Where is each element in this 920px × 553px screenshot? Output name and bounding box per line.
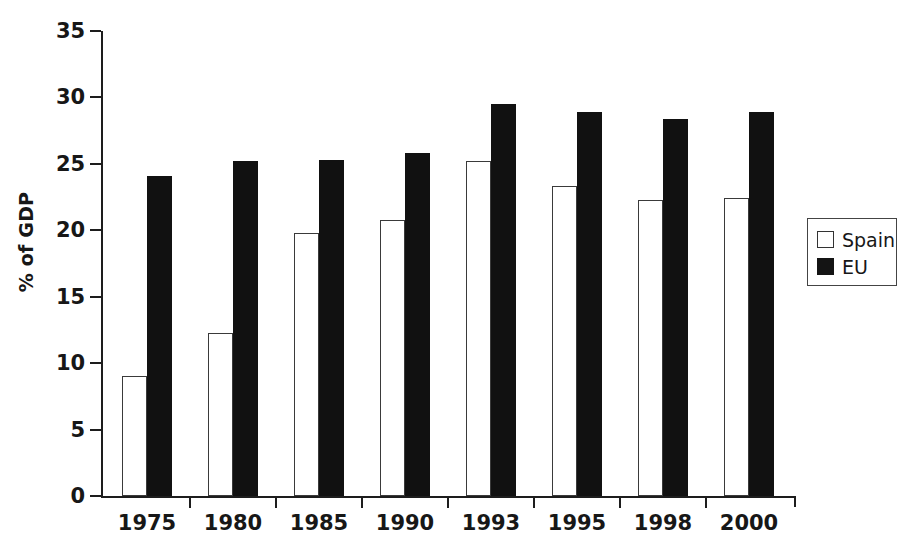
y-axis-tick <box>90 296 101 298</box>
legend-item-eu: EU <box>817 253 896 280</box>
x-axis-tick-label: 1998 <box>634 511 692 535</box>
bar-spain-1975 <box>122 376 147 496</box>
x-axis-tick-label: 1990 <box>376 511 434 535</box>
y-axis-tick-label: 0 <box>71 484 88 508</box>
y-axis-title: % of GDP <box>15 172 37 312</box>
y-axis-tick-label: 30 <box>56 85 87 109</box>
legend-label-spain: Spain <box>842 229 895 251</box>
bar-chart: % of GDP 05101520253035 1975198019851990… <box>0 0 920 553</box>
bar-spain-1985 <box>294 233 319 496</box>
x-axis-tick-label: 1995 <box>548 511 606 535</box>
y-axis-tick-label: 35 <box>56 19 87 43</box>
bar-spain-1990 <box>380 220 405 496</box>
y-axis-tick <box>90 495 101 497</box>
bar-spain-1995 <box>552 186 577 496</box>
y-axis-line <box>101 31 103 498</box>
y-axis-tick <box>90 429 101 431</box>
x-axis-tick <box>619 496 621 508</box>
y-axis-tick <box>90 163 101 165</box>
legend-item-spain: Spain <box>817 226 896 253</box>
legend-swatch-spain-icon <box>817 231 834 248</box>
x-axis-tick <box>189 496 191 508</box>
bar-eu-1975 <box>147 176 172 496</box>
y-axis-tick <box>90 229 101 231</box>
bar-eu-1995 <box>577 112 602 496</box>
bar-eu-1998 <box>663 119 688 496</box>
plot-area: 05101520253035 1975198019851990199319951… <box>101 31 795 497</box>
y-axis-tick <box>90 96 101 98</box>
bar-eu-1980 <box>233 161 258 496</box>
x-axis-tick-label: 2000 <box>720 511 778 535</box>
x-axis-tick <box>533 496 535 508</box>
y-axis-tick-label: 25 <box>56 152 87 176</box>
x-axis-tick <box>447 496 449 508</box>
y-axis-tick-label: 15 <box>56 285 87 309</box>
chart-legend: Spain EU <box>807 218 897 286</box>
bar-eu-2000 <box>749 112 774 496</box>
bar-spain-1980 <box>208 333 233 496</box>
bar-eu-1993 <box>491 104 516 496</box>
y-axis-tick <box>90 30 101 32</box>
y-axis-tick-label: 20 <box>56 218 87 242</box>
x-axis-tick-label: 1975 <box>118 511 176 535</box>
bar-spain-1998 <box>638 200 663 496</box>
x-axis-tick <box>361 496 363 508</box>
y-axis-tick <box>90 362 101 364</box>
x-axis-tick-label: 1985 <box>290 511 348 535</box>
y-axis-tick-label: 5 <box>71 418 88 442</box>
x-axis-tick <box>705 496 707 508</box>
x-axis-tick-label: 1980 <box>204 511 262 535</box>
legend-label-eu: EU <box>842 256 868 278</box>
bar-spain-2000 <box>724 198 749 496</box>
bar-eu-1985 <box>319 160 344 496</box>
bar-spain-1993 <box>466 161 491 496</box>
y-axis-tick-label: 10 <box>56 351 87 375</box>
x-axis-tick <box>275 496 277 508</box>
legend-swatch-eu-icon <box>817 258 834 275</box>
bar-eu-1990 <box>405 153 430 496</box>
x-axis-tick-label: 1993 <box>462 511 520 535</box>
x-axis-end-tick <box>794 496 796 507</box>
